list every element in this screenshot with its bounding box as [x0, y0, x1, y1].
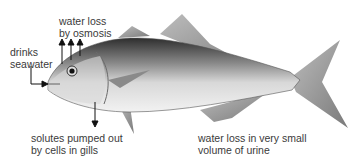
label-solutes-pumped: solutes pumped out by cells in gills: [31, 132, 123, 156]
tail-fin: [290, 40, 348, 128]
label-drinks-seawater: drinks seawater: [10, 46, 53, 70]
label-urine: water loss in very small volume of urine: [198, 132, 307, 156]
label-water-loss-osmosis: water loss by osmosis: [59, 15, 112, 39]
dorsal-fin-front: [118, 26, 150, 38]
